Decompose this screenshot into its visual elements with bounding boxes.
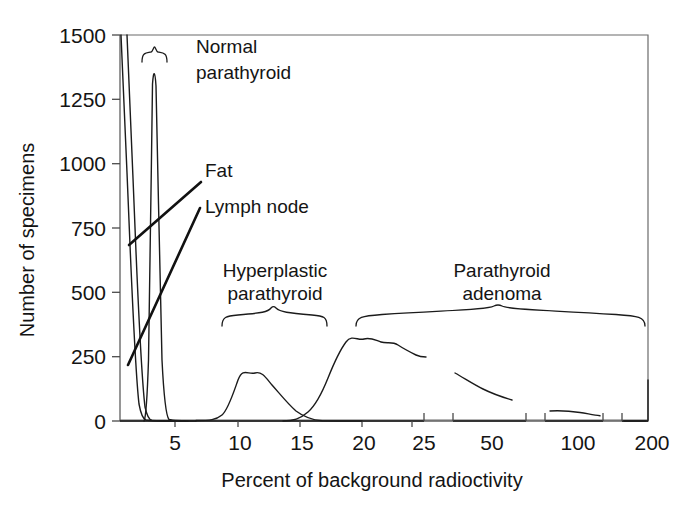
annotation-adenoma-line2: adenoma (462, 283, 542, 304)
x-tick-label-20: 20 (352, 431, 375, 454)
x-tick-label-15: 15 (290, 431, 313, 454)
y-tick-label-500: 500 (71, 281, 106, 304)
y-tick-label-750: 750 (71, 217, 106, 240)
x-tick-label-25: 25 (412, 431, 435, 454)
x-tick-label-200: 200 (634, 431, 669, 454)
x-axis-tick-labels: 5 10 15 20 25 50 100 200 (169, 431, 669, 454)
annotation-adenoma-line1: Parathyroid (453, 260, 550, 281)
y-tick-label-1500: 1500 (59, 24, 106, 47)
annotation-fat-label: Fat (205, 160, 233, 181)
y-tick-label-0: 0 (94, 410, 106, 433)
x-tick-label-10: 10 (228, 431, 251, 454)
y-tick-label-1250: 1250 (59, 88, 106, 111)
annotation-normal-line1: Normal (196, 36, 257, 57)
chart-figure: 1500 1250 1000 750 500 250 0 Number of s… (0, 0, 679, 505)
x-axis-title: Percent of background radioctivity (221, 469, 522, 491)
x-tick-label-5: 5 (169, 431, 181, 454)
annotation-normal-line2: parathyroid (196, 62, 291, 83)
annotation-hyperplastic-line1: Hyperplastic (223, 260, 328, 281)
chart-svg: 1500 1250 1000 750 500 250 0 Number of s… (0, 0, 679, 505)
y-axis-title: Number of specimens (16, 143, 38, 338)
annotation-hyperplastic-line2: parathyroid (227, 283, 322, 304)
x-tick-label-50: 50 (480, 431, 503, 454)
annotation-lymph-node-label: Lymph node (205, 196, 309, 217)
y-tick-label-250: 250 (71, 345, 106, 368)
x-tick-label-100: 100 (560, 431, 595, 454)
y-tick-label-1000: 1000 (59, 152, 106, 175)
